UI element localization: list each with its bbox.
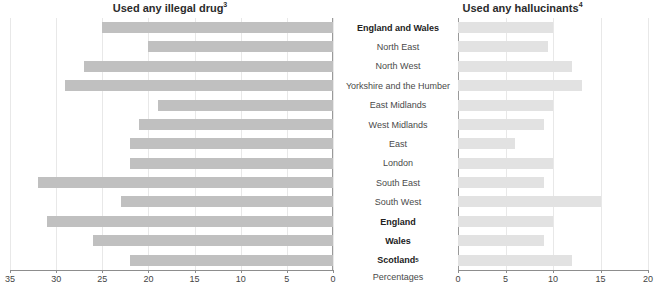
bar-row (10, 96, 333, 115)
axis-tick (102, 270, 103, 273)
bar-row (458, 251, 648, 270)
bar (148, 41, 333, 52)
category-label: Yorkshire and the Humber (338, 76, 458, 95)
category-label: West Midlands (338, 115, 458, 134)
bar-row (10, 192, 333, 211)
category-label-column: England and WalesNorth EastNorth WestYor… (338, 18, 458, 270)
bar (458, 255, 572, 266)
bar (458, 22, 553, 33)
axis-tick (148, 270, 149, 273)
left-chart-x-axis: 35302520151050 (10, 270, 333, 292)
left-chart-title: Used any illegal drug3 (0, 1, 340, 14)
category-label-text: West Midlands (369, 120, 428, 130)
bar-row (458, 37, 648, 56)
bar-row (10, 76, 333, 95)
bar-row (10, 231, 333, 250)
bar-row (458, 192, 648, 211)
axis-tick (287, 270, 288, 273)
category-label-text: South West (375, 197, 421, 207)
bar (84, 61, 333, 72)
axis-tick-label: 25 (97, 274, 107, 284)
bar (130, 158, 333, 169)
axis-tick (333, 270, 334, 273)
bar-row (10, 57, 333, 76)
axis-tick (506, 270, 507, 273)
axis-tick (648, 270, 649, 273)
bar-row (10, 212, 333, 231)
bar (130, 138, 333, 149)
right-chart-title-text: Used any hallucinants (462, 2, 578, 14)
category-label-text: Scotland (377, 255, 415, 265)
right-chart-x-axis: 05101520 (458, 270, 648, 292)
axis-tick-label: 10 (236, 274, 246, 284)
bar-row (10, 173, 333, 192)
left-chart-bars (10, 18, 333, 270)
bar (121, 196, 333, 207)
category-label-text: Yorkshire and the Humber (346, 81, 450, 91)
axis-tick-label: 15 (190, 274, 200, 284)
bar-row (10, 134, 333, 153)
bar-row (10, 18, 333, 37)
category-label: North West (338, 57, 458, 76)
axis-tick-label: 5 (284, 274, 289, 284)
axis-caption: Percentages (338, 272, 458, 282)
axis-tick-label: 5 (503, 274, 508, 284)
left-chart-plot-area (10, 18, 333, 270)
bar-row (458, 154, 648, 173)
axis-tick-label: 0 (330, 274, 335, 284)
category-label: North East (338, 37, 458, 56)
bar-row (10, 154, 333, 173)
category-label: East (338, 134, 458, 153)
bar (139, 119, 333, 130)
bar-row (10, 251, 333, 270)
axis-tick-label: 35 (5, 274, 15, 284)
bar (38, 177, 333, 188)
axis-tick-label: 30 (51, 274, 61, 284)
category-label-text: North East (377, 42, 420, 52)
bar (65, 80, 333, 91)
left-chart-title-text: Used any illegal drug (113, 2, 224, 14)
bar (458, 158, 553, 169)
left-axis-line (10, 270, 333, 271)
bar-row (458, 76, 648, 95)
category-label: England and Wales (338, 18, 458, 37)
axis-tick-label: 20 (143, 274, 153, 284)
bar (458, 216, 553, 227)
category-label: Scotland5 (338, 251, 458, 270)
right-chart-plot-area (458, 18, 648, 270)
bar-row (10, 115, 333, 134)
axis-tick (241, 270, 242, 273)
bar (458, 196, 601, 207)
bar (47, 216, 333, 227)
axis-tick-label: 10 (548, 274, 558, 284)
bar (458, 61, 572, 72)
category-label: London (338, 154, 458, 173)
bar (458, 41, 548, 52)
bar-row (458, 173, 648, 192)
right-chart-title: Used any hallucinants4 (390, 1, 655, 14)
bar (93, 235, 333, 246)
bar-row (458, 96, 648, 115)
bar (158, 100, 333, 111)
gridline (333, 18, 334, 270)
axis-tick-label: 15 (595, 274, 605, 284)
category-label-text: North West (376, 61, 421, 71)
axis-tick (553, 270, 554, 273)
axis-tick (10, 270, 11, 273)
category-label-text: England (380, 217, 416, 227)
category-label: South East (338, 173, 458, 192)
bar (458, 100, 553, 111)
bar-row (458, 57, 648, 76)
bar-row (10, 37, 333, 56)
bar (458, 119, 544, 130)
bar (102, 22, 333, 33)
bar (458, 177, 544, 188)
bar (458, 138, 515, 149)
dual-bar-chart-figure: Used any illegal drug3 Used any hallucin… (0, 0, 655, 293)
gridline (648, 18, 649, 270)
bar (458, 80, 582, 91)
axis-tick-label: 20 (643, 274, 653, 284)
bar (458, 235, 544, 246)
category-label-text: South East (376, 178, 420, 188)
category-label: South West (338, 192, 458, 211)
